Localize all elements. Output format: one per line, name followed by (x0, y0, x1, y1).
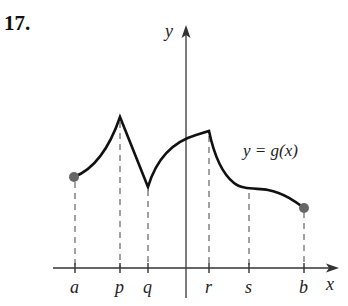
tick-labels: a p q r s b (70, 277, 308, 297)
tick-label-a: a (70, 277, 79, 297)
y-axis-label: y (163, 21, 173, 41)
function-curve (74, 117, 304, 208)
tick-label-s: s (245, 277, 252, 297)
tick-label-r: r (205, 277, 213, 297)
endpoint-dot-b (299, 203, 309, 213)
x-axis-label: x (325, 274, 334, 294)
endpoint-dot-a (69, 172, 79, 182)
graph-figure: 17. y x y = g(x) a p (0, 0, 348, 306)
tick-label-b: b (299, 277, 308, 297)
problem-number: 17. (4, 11, 30, 35)
tick-label-p: p (113, 277, 124, 297)
curve-label: y = g(x) (241, 141, 298, 160)
tick-label-q: q (143, 277, 152, 297)
